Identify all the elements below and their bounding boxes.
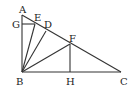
label-G: G <box>12 19 20 30</box>
label-D: D <box>44 19 52 30</box>
label-H: H <box>66 76 75 87</box>
label-B: B <box>16 76 23 87</box>
label-A: A <box>18 4 27 15</box>
label-C: C <box>120 76 128 87</box>
segment-BD <box>22 31 46 72</box>
label-F: F <box>69 33 76 44</box>
label-E: E <box>34 12 41 23</box>
segment-BF <box>22 44 70 72</box>
segment-BE <box>22 24 35 72</box>
geometry-diagram: A G E D F B H C <box>0 0 138 92</box>
